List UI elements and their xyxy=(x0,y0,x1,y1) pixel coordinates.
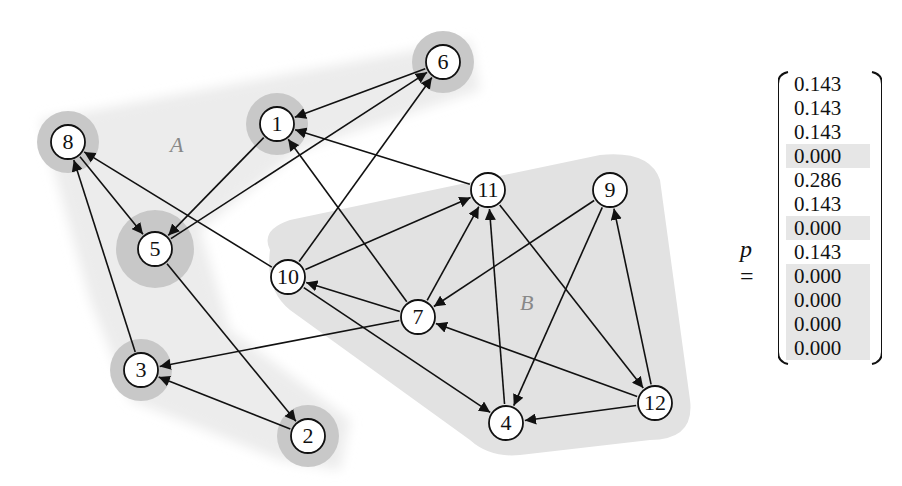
node-2: 2 xyxy=(291,419,325,453)
graph-diagram: 123456789101112 A B xyxy=(0,0,740,486)
node-label: 7 xyxy=(413,304,424,329)
node-8: 8 xyxy=(51,125,85,159)
matrix-entries: 0.1430.1430.1430.0000.2860.1430.0000.143… xyxy=(780,72,876,360)
vector-entry: 0.143 xyxy=(786,120,870,144)
node-label: 9 xyxy=(605,177,616,202)
vector-entry: 0.143 xyxy=(786,240,870,264)
node-4: 4 xyxy=(489,406,523,440)
vector-entry: 0.000 xyxy=(786,264,870,288)
vector-entry: 0.000 xyxy=(786,288,870,312)
node-12: 12 xyxy=(638,386,672,420)
vector-entry: 0.143 xyxy=(786,96,870,120)
node-label: 2 xyxy=(303,423,314,448)
edge-11-to-1 xyxy=(295,130,470,185)
vector-entry: 0.286 xyxy=(786,168,870,192)
node-11: 11 xyxy=(471,173,505,207)
node-label: 4 xyxy=(501,410,512,435)
region-a-label: A xyxy=(168,132,184,157)
node-label: 5 xyxy=(150,236,161,261)
node-label: 1 xyxy=(272,111,283,136)
node-10: 10 xyxy=(271,260,305,294)
node-label: 8 xyxy=(63,129,74,154)
node-label: 10 xyxy=(277,264,299,289)
node-3: 3 xyxy=(124,353,158,387)
node-7: 7 xyxy=(401,300,435,334)
node-6: 6 xyxy=(426,45,460,79)
node-1: 1 xyxy=(260,107,294,141)
vector-entry: 0.000 xyxy=(786,336,870,360)
region-b-label: B xyxy=(520,290,533,315)
vector-entry: 0.143 xyxy=(786,192,870,216)
vector-entry: 0.000 xyxy=(786,216,870,240)
node-label: 12 xyxy=(644,390,666,415)
node-label: 3 xyxy=(136,357,147,382)
vector-entry: 0.000 xyxy=(786,144,870,168)
node-5: 5 xyxy=(138,232,172,266)
vector-entry: 0.143 xyxy=(786,72,870,96)
vector-label: p = xyxy=(740,236,754,290)
vector-entry: 0.000 xyxy=(786,312,870,336)
node-9: 9 xyxy=(593,173,627,207)
node-label: 11 xyxy=(477,177,498,202)
node-label: 6 xyxy=(438,49,449,74)
